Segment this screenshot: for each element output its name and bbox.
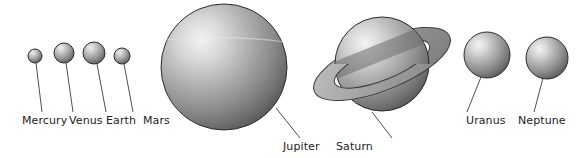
label-neptune: Neptune [518,114,566,127]
mars-sphere [114,48,130,64]
label-uranus: Uranus [466,114,506,127]
label-mercury: Mercury [22,114,68,127]
leader-line-neptune [534,78,543,112]
planet-neptune: Neptune [518,37,568,127]
earth-sphere [83,42,105,64]
leader-line-mercury [36,63,42,112]
label-saturn: Saturn [336,140,373,153]
planet-saturn: Saturn [290,0,476,158]
neptune-sphere [526,37,568,79]
planet-size-diagram: Mercury Venus Earth Mars Jupiter [0,0,584,158]
venus-sphere [54,43,74,63]
label-venus: Venus [69,114,103,127]
mercury-sphere [28,49,42,63]
jupiter-sphere [161,4,287,130]
leader-line-venus [66,63,73,112]
uranus-sphere [464,32,510,78]
label-earth: Earth [106,114,136,127]
leader-line-earth [97,64,106,112]
diagram-canvas: Mercury Venus Earth Mars Jupiter [0,0,584,158]
label-mars: Mars [143,114,170,127]
leader-line-mars [124,64,133,112]
